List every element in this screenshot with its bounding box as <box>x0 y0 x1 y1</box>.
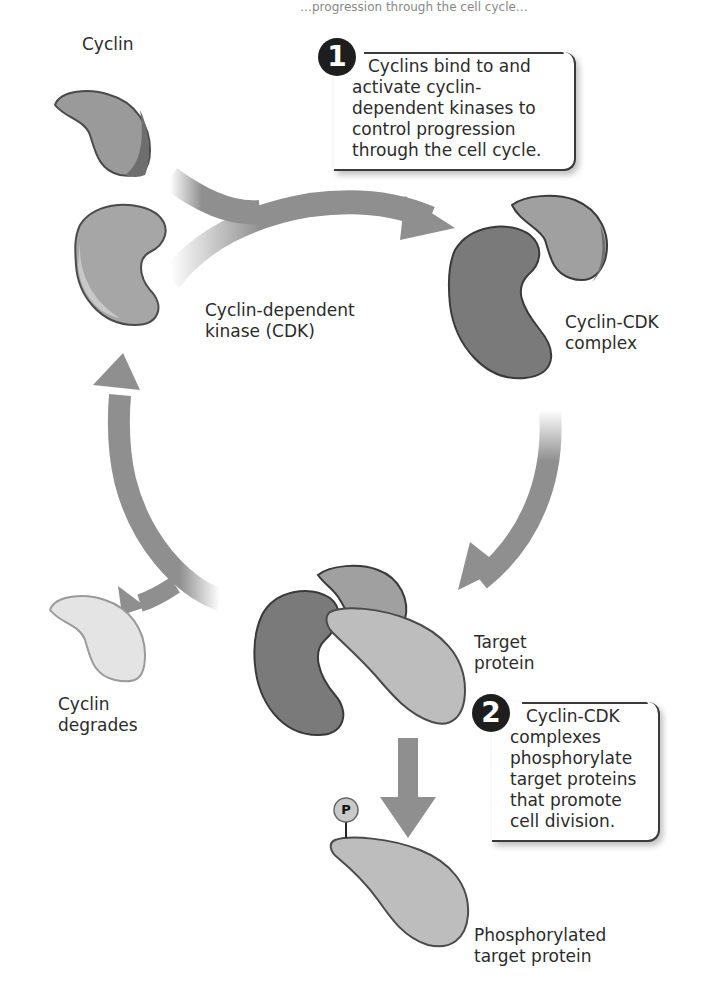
step-1-line-4: through the cell cycle. <box>352 140 566 161</box>
arrow-complex-to-target <box>458 410 551 590</box>
label-target: Target protein <box>474 632 534 674</box>
label-complex-line1: Cyclin-CDK <box>565 312 659 333</box>
cdk-shape <box>75 205 165 325</box>
label-degrades-line2: degrades <box>58 715 138 736</box>
step-1-line-3: control progression <box>352 119 566 140</box>
label-cdk-line2: kinase (CDK) <box>205 321 355 342</box>
label-target-line2: protein <box>474 653 534 674</box>
step-2-line-2: phosphorylate <box>510 748 650 769</box>
step-2-line-4: that promote <box>510 790 650 811</box>
step-2-line-3: target proteins <box>510 769 650 790</box>
step-1-line-0: Cyclins bind to and <box>352 56 566 77</box>
label-cdk-line1: Cyclin-dependent <box>205 300 355 321</box>
arrow-cdk-recycle <box>93 353 220 615</box>
diagram-canvas: …progression through the cell cycle… Cyc… <box>0 0 705 994</box>
arrow-cyclin-binding <box>170 178 455 280</box>
label-complex: Cyclin-CDK complex <box>565 312 659 354</box>
label-cyclin: Cyclin <box>82 34 134 55</box>
step-2-line-5: cell division. <box>510 811 650 832</box>
label-target-line1: Target <box>474 632 534 653</box>
cyclin-shape <box>55 91 150 177</box>
step-1-line-2: dependent kinases to <box>352 98 566 119</box>
phosphate-label: P <box>337 801 355 819</box>
step-2-badge: 2 <box>472 694 510 732</box>
label-complex-line2: complex <box>565 333 659 354</box>
step-2-line-0: Cyclin-CDK <box>510 706 650 727</box>
step-1-callout: Cyclins bind to and activate cyclin- dep… <box>334 52 576 171</box>
step-2-callout: Cyclin-CDK complexes phosphorylate targe… <box>492 702 660 842</box>
label-degrades-line1: Cyclin <box>58 694 138 715</box>
label-cdk: Cyclin-dependent kinase (CDK) <box>205 300 355 342</box>
step-2-line-1: complexes <box>510 727 650 748</box>
header-fragment: …progression through the cell cycle… <box>300 0 528 14</box>
callout-border <box>364 52 564 54</box>
arrow-phosphorylation <box>380 738 436 838</box>
step-1-badge: 1 <box>318 38 356 76</box>
label-phosphorylated: Phosphorylated target protein <box>474 925 606 967</box>
step-1-line-1: activate cyclin- <box>352 77 566 98</box>
label-phospho-line1: Phosphorylated <box>474 925 606 946</box>
label-phospho-line2: target protein <box>474 946 606 967</box>
callout-border <box>522 702 648 704</box>
complex-with-target-shape <box>254 566 465 735</box>
label-cyclin-degrades: Cyclin degrades <box>58 694 138 736</box>
